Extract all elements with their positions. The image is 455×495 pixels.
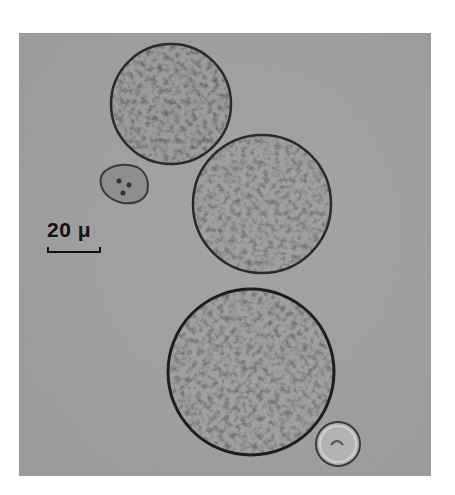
scale-bar-label: 20 μ [47, 219, 107, 241]
micrograph: 20 μ [19, 33, 431, 476]
cell-bottom [167, 288, 335, 456]
micrograph-canvas [19, 33, 431, 476]
small-cell-bottom-right [316, 422, 360, 466]
scale-bar-group: 20 μ [47, 219, 107, 253]
scale-bar [47, 247, 101, 253]
